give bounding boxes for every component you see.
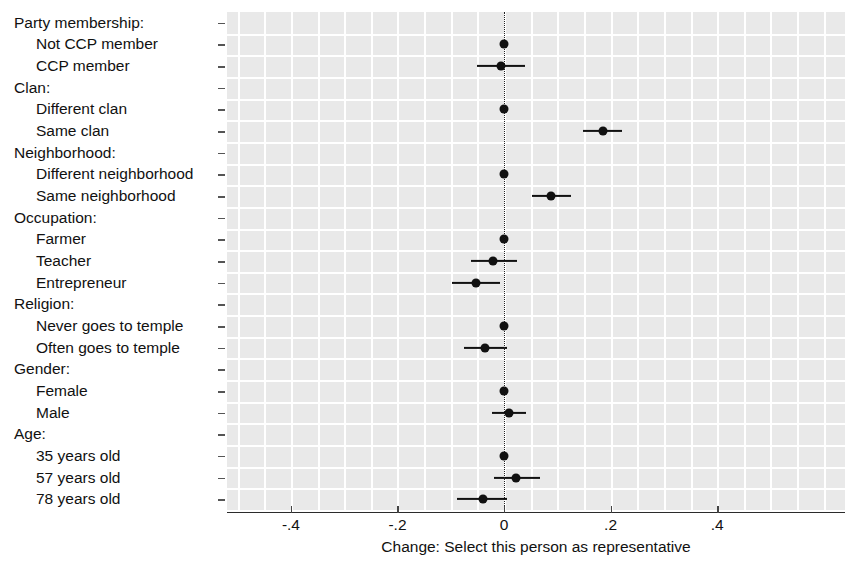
x-axis-tick: [611, 506, 612, 513]
estimate-point: [500, 451, 509, 460]
gridline-vertical: [291, 12, 293, 510]
x-axis-tick-label: .4: [711, 516, 724, 534]
dot-whisker-chart: Party membership:Not CCP memberCCP membe…: [0, 0, 852, 566]
attribute-level-label: Male: [0, 403, 214, 423]
y-axis-tick: [218, 218, 225, 220]
estimate-point: [500, 170, 509, 179]
gridline-horizontal: [227, 358, 845, 360]
gridline-vertical: [797, 12, 799, 510]
y-axis-tick: [218, 131, 225, 133]
y-axis-tick: [218, 88, 225, 90]
y-axis-tick: [218, 326, 225, 328]
y-axis-tick: [218, 413, 225, 415]
gridline-vertical: [344, 12, 346, 510]
attribute-level-label: Different clan: [0, 99, 214, 119]
y-axis-tick: [218, 23, 225, 25]
gridline-vertical: [637, 12, 639, 510]
gridline-vertical: [770, 12, 772, 510]
gridline-horizontal: [227, 185, 845, 187]
attribute-level-label: Often goes to temple: [0, 338, 214, 358]
y-axis-tick: [218, 478, 225, 480]
gridline-vertical: [611, 12, 613, 510]
gridline-vertical: [744, 12, 746, 510]
attribute-group-label: Gender:: [0, 359, 214, 379]
estimate-point: [500, 105, 509, 114]
gridline-horizontal: [227, 380, 845, 382]
attribute-level-label: CCP member: [0, 56, 214, 76]
x-axis-line: [227, 512, 845, 513]
y-axis-tick: [218, 109, 225, 111]
gridline-vertical: [397, 12, 399, 510]
gridline-vertical: [531, 12, 533, 510]
estimate-point: [500, 40, 509, 49]
attribute-group-label: Clan:: [0, 78, 214, 98]
category-axis-labels: Party membership:Not CCP memberCCP membe…: [0, 0, 214, 510]
x-axis-tick-label: 0: [500, 516, 509, 534]
x-axis-tick-label: -.2: [388, 516, 406, 534]
estimate-point: [497, 62, 506, 71]
x-axis-tick-label: .2: [604, 516, 617, 534]
gridline-horizontal: [227, 337, 845, 339]
x-axis-title: Change: Select this person as representa…: [227, 538, 845, 556]
gridline-vertical: [451, 12, 453, 510]
gridline-horizontal: [227, 142, 845, 144]
gridline-horizontal: [227, 445, 845, 447]
attribute-group-label: Occupation:: [0, 208, 214, 228]
y-axis-tick: [218, 196, 225, 198]
gridline-horizontal: [227, 488, 845, 490]
gridline-vertical: [557, 12, 559, 510]
y-axis-tick: [218, 369, 225, 371]
gridline-horizontal: [227, 34, 845, 36]
attribute-level-label: 35 years old: [0, 446, 214, 466]
estimate-point: [489, 257, 498, 266]
estimate-point: [546, 192, 555, 201]
gridline-horizontal: [227, 315, 845, 317]
gridline-horizontal: [227, 120, 845, 122]
gridline-horizontal: [227, 423, 845, 425]
gridline-vertical: [264, 12, 266, 510]
gridline-horizontal: [227, 207, 845, 209]
attribute-level-label: Same neighborhood: [0, 186, 214, 206]
gridline-vertical: [424, 12, 426, 510]
y-axis-tick: [218, 391, 225, 393]
y-axis-tick: [218, 239, 225, 241]
y-axis-tick: [218, 434, 225, 436]
estimate-point: [511, 473, 520, 482]
x-axis-tick-label: -.4: [282, 516, 300, 534]
y-axis-tick: [218, 44, 225, 46]
y-axis-tick: [218, 499, 225, 501]
gridline-horizontal: [227, 77, 845, 79]
attribute-level-label: Never goes to temple: [0, 316, 214, 336]
x-axis-tick: [291, 506, 292, 513]
gridline-horizontal: [227, 272, 845, 274]
estimate-point: [505, 408, 514, 417]
y-axis-tick: [218, 283, 225, 285]
plot-panel: [227, 12, 845, 510]
gridline-horizontal: [227, 99, 845, 101]
gridline-horizontal: [227, 229, 845, 231]
gridline-vertical: [318, 12, 320, 510]
gridline-horizontal: [227, 250, 845, 252]
y-axis-tick: [218, 174, 225, 176]
gridline-vertical: [371, 12, 373, 510]
attribute-level-label: Teacher: [0, 251, 214, 271]
gridline-horizontal: [227, 293, 845, 295]
y-axis-tick: [218, 348, 225, 350]
gridline-vertical: [584, 12, 586, 510]
estimate-point: [500, 321, 509, 330]
attribute-level-label: Not CCP member: [0, 34, 214, 54]
y-axis-tick: [218, 153, 225, 155]
gridline-vertical: [238, 12, 240, 510]
attribute-level-label: Same clan: [0, 121, 214, 141]
estimate-point: [500, 235, 509, 244]
estimate-point: [500, 386, 509, 395]
attribute-level-label: 78 years old: [0, 489, 214, 509]
gridline-horizontal: [227, 402, 845, 404]
gridline-vertical: [824, 12, 826, 510]
estimate-point: [472, 278, 481, 287]
gridline-vertical: [691, 12, 693, 510]
y-axis-tick: [218, 304, 225, 306]
attribute-level-label: Female: [0, 381, 214, 401]
x-axis-tick: [717, 506, 718, 513]
estimate-point: [478, 495, 487, 504]
